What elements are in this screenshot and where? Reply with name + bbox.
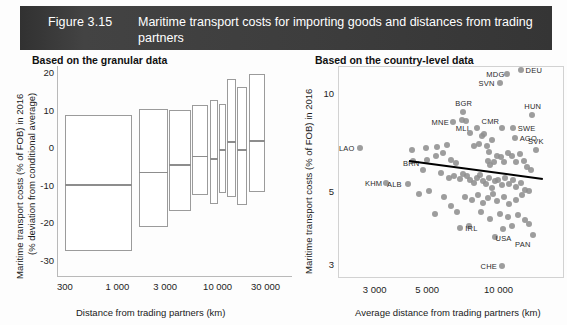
left-x-tick-label: 1 000 — [96, 281, 138, 292]
scatter-point — [510, 177, 516, 183]
scatter-point-labeled — [500, 226, 506, 232]
scatter-point-labeled — [518, 67, 524, 73]
scatter-point — [448, 203, 454, 209]
left-x-tick-label: 10 000 — [197, 281, 239, 292]
figure-title: Maritime transport costs for importing g… — [138, 15, 538, 46]
scatter-point-labeled — [533, 147, 539, 153]
boxplot-box — [249, 74, 265, 192]
boxplot-box — [227, 79, 236, 197]
scatter-point — [501, 194, 507, 200]
scatter-point — [416, 191, 422, 197]
scatter-point — [528, 167, 534, 173]
scatter-point — [490, 191, 496, 197]
right-panel-title: Based on the country-level data — [315, 54, 474, 66]
right-y-tick-label: 10 — [312, 88, 334, 99]
scatter-point-label: SVN — [479, 79, 495, 88]
scatter-point-label: MDG — [486, 70, 504, 79]
scatter-point-labeled — [450, 119, 456, 125]
left-y-tick-label: -30 — [30, 255, 54, 266]
scatter-point-label: DEU — [526, 66, 542, 75]
left-y-tick-label: 0 — [30, 142, 54, 153]
scatter-point — [478, 209, 484, 215]
scatter-point — [517, 151, 523, 157]
scatter-point — [477, 172, 483, 178]
left-panel-boxplot: Based on the granular data Maritime tran… — [0, 52, 293, 325]
scatter-point — [471, 180, 477, 186]
left-panel-ylabel-line2: (% deviation from conditional average) — [26, 93, 37, 255]
scatter-point — [441, 194, 447, 200]
scatter-point — [432, 211, 438, 217]
left-x-tick-label: 300 — [44, 281, 86, 292]
scatter-point-label: MLI — [456, 124, 469, 133]
boxplot-box — [210, 100, 219, 204]
left-y-tick-label: -20 — [30, 217, 54, 228]
boxplot-median-line — [227, 141, 236, 143]
right-x-tick-label: 10 000 — [477, 284, 519, 295]
scatter-point — [469, 197, 475, 203]
scatter-point-label: CHE — [481, 262, 497, 271]
scatter-point-labeled — [457, 225, 463, 231]
scatter-point — [509, 223, 515, 229]
boxplot-box — [192, 105, 208, 195]
boxplot-median-line — [219, 149, 226, 151]
figure-number: Figure 3.15 — [48, 15, 112, 29]
scatter-point — [462, 194, 468, 200]
right-x-tick-label: 3 000 — [354, 284, 396, 295]
scatter-point — [483, 181, 489, 187]
boxplot-median-line — [65, 184, 132, 186]
scatter-point-label: BGR — [455, 99, 472, 108]
scatter-point — [487, 216, 493, 222]
scatter-point — [484, 143, 490, 149]
left-y-tick-label: -10 — [30, 180, 54, 191]
right-panel-xlabel: Average distance from trading partners (… — [355, 307, 541, 318]
boxplot-median-line — [249, 140, 265, 142]
boxplot-median-line — [139, 172, 168, 174]
scatter-point-label: SWE — [518, 124, 536, 133]
scatter-point-labeled — [357, 145, 363, 151]
boxplot-median-line — [169, 164, 190, 166]
scatter-point-label: CMR — [482, 117, 500, 126]
right-y-tick-label: 3 — [312, 259, 334, 270]
scatter-point-label: USA — [496, 234, 512, 243]
left-y-tick-label: 20 — [30, 67, 54, 78]
scatter-point-labeled — [512, 135, 518, 141]
scatter-point-labeled — [474, 125, 480, 131]
left-x-tick-label: 30 000 — [244, 281, 286, 292]
scatter-point-label: IRL — [465, 224, 477, 233]
scatter-point-labeled — [499, 263, 505, 269]
left-panel-ylabel-line1: Maritime transport costs (% of FOB) in 2… — [14, 94, 25, 279]
left-panel-xlabel: Distance from trading partners (km) — [76, 307, 225, 318]
figure-header-bar: Figure 3.15 Maritime transport costs for… — [20, 6, 552, 50]
scatter-point — [485, 195, 491, 201]
scatter-point-label: HUN — [524, 102, 541, 111]
scatter-point-label: KHM — [365, 179, 382, 188]
scatter-point-label: PAN — [515, 240, 530, 249]
boxplot-median-line — [210, 158, 219, 160]
right-x-tick-label: 5 000 — [406, 284, 448, 295]
scatter-point — [526, 188, 532, 194]
scatter-point — [518, 180, 524, 186]
right-panel-scatter: Based on the country-level data Maritime… — [293, 52, 567, 325]
scatter-point — [486, 175, 492, 181]
right-panel-ylabel: Maritime transport costs (% of FOB) in 2… — [303, 89, 314, 274]
scatter-point — [489, 137, 495, 143]
left-panel-title: Based on the granular data — [32, 54, 167, 66]
boxplot-box — [237, 87, 247, 204]
scatter-point-label: LAO — [339, 144, 355, 153]
left-x-tick-label: 3 000 — [144, 281, 186, 292]
scatter-point-label: SVK — [528, 137, 544, 146]
scatter-point — [497, 211, 503, 217]
scatter-point — [476, 141, 482, 147]
left-y-tick-label: 10 — [30, 105, 54, 116]
left-x-axis-line — [57, 276, 292, 277]
left-y-axis-line — [57, 66, 58, 276]
boxplot-median-line — [237, 149, 247, 151]
scatter-point-label: ALB — [387, 180, 402, 189]
boxplot-box — [169, 110, 190, 211]
scatter-point — [438, 170, 444, 176]
figure-container: Figure 3.15 Maritime transport costs for… — [0, 0, 567, 325]
scatter-point — [409, 147, 415, 153]
scatter-point — [513, 197, 519, 203]
scatter-point — [434, 144, 440, 150]
scatter-point — [521, 158, 527, 164]
